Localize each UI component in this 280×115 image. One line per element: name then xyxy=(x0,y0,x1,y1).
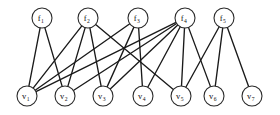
graph-node-f4[interactable]: f4 xyxy=(175,8,195,28)
bipartite-factor-graph: f1f2f3f4f5v1v2v3v4v5v6v7 xyxy=(0,0,280,115)
variable-node-subscript-v5: 5 xyxy=(181,96,184,102)
graph-node-f1[interactable]: f1 xyxy=(32,8,52,28)
factor-node-subscript-f2: 2 xyxy=(87,18,90,24)
graph-edge-f5-v5 xyxy=(186,27,219,87)
variable-node-subscript-v3: 3 xyxy=(103,96,106,102)
factor-node-subscript-f1: 1 xyxy=(41,18,44,24)
graph-edge-f5-v6 xyxy=(215,28,222,86)
graph-edge-f4-v4 xyxy=(148,27,181,87)
graph-edge-f3-v1 xyxy=(35,24,130,91)
variable-node-subscript-v2: 2 xyxy=(65,96,68,102)
factor-node-subscript-f5: 5 xyxy=(223,18,226,24)
graph-node-v2[interactable]: v2 xyxy=(55,86,75,106)
graph-edge-f3-v4 xyxy=(139,28,143,86)
factor-node-subscript-f4: 4 xyxy=(184,18,187,24)
variable-node-subscript-v6: 6 xyxy=(214,96,217,102)
graph-node-v5[interactable]: v5 xyxy=(171,86,191,106)
factor-node-subscript-f3: 3 xyxy=(137,18,140,24)
graph-node-f5[interactable]: f5 xyxy=(214,8,234,28)
graph-edge-f4-v2 xyxy=(73,23,176,90)
graph-edge-f2-v1 xyxy=(33,26,82,88)
graph-edge-f4-v5 xyxy=(182,28,185,86)
graph-node-v4[interactable]: v4 xyxy=(133,86,153,106)
graph-node-f2[interactable]: f2 xyxy=(78,8,98,28)
edge-layer xyxy=(29,22,249,91)
variable-node-subscript-v4: 4 xyxy=(143,96,146,102)
graph-node-f3[interactable]: f3 xyxy=(128,8,148,28)
graph-node-v7[interactable]: v7 xyxy=(242,86,262,106)
graph-edge-f5-v7 xyxy=(227,27,248,86)
graph-node-v3[interactable]: v3 xyxy=(93,86,113,106)
graph-node-v1[interactable]: v1 xyxy=(17,86,37,106)
variable-node-subscript-v1: 1 xyxy=(27,96,30,102)
graph-node-v6[interactable]: v6 xyxy=(204,86,224,106)
graph-edge-f2-v3 xyxy=(90,28,101,86)
variable-node-subscript-v7: 7 xyxy=(252,96,255,102)
graph-canvas: f1f2f3f4f5v1v2v3v4v5v6v7 xyxy=(0,0,280,115)
graph-edge-f1-v1 xyxy=(29,28,40,86)
